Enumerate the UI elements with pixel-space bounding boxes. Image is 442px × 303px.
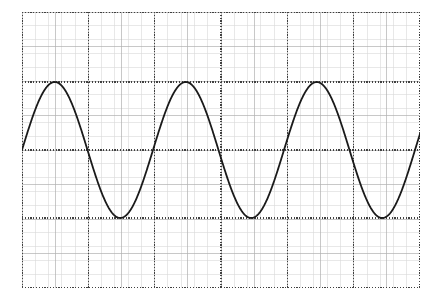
screenshot-root [0, 0, 442, 303]
plot-svg [22, 12, 420, 288]
sine-waveform-plot [22, 12, 420, 288]
